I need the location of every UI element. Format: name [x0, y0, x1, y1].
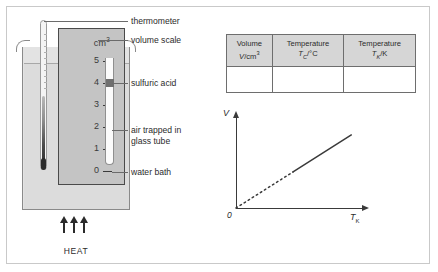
thermometer-graduation: [44, 70, 47, 71]
header-symbol-unit: TC/°C: [275, 49, 342, 62]
cell-temp-kelvin[interactable]: [344, 66, 416, 92]
cell-volume[interactable]: [227, 66, 273, 92]
cell-temp-celsius[interactable]: [272, 66, 344, 92]
thermometer-graduation: [44, 64, 47, 65]
scale-number: 1: [94, 143, 99, 153]
heat-arrow-head: [80, 216, 88, 223]
unit: K: [382, 49, 387, 58]
scale-tick-mark: [103, 171, 112, 172]
heat-arrow-stem: [83, 222, 85, 233]
apparatus-illustration: cm3 5 4 3 2 1 0: [0, 0, 215, 272]
heat-label: HEAT: [48, 246, 104, 256]
thermometer-graduation: [44, 58, 47, 59]
heat-arrow-stem: [63, 222, 65, 233]
glass-tube: [105, 58, 114, 165]
graph-plot-area: [222, 104, 402, 229]
volume-temperature-graph: V TK 0: [222, 104, 402, 229]
thermometer-graduation: [44, 34, 47, 35]
callout-volume-scale: volume scale: [131, 35, 181, 46]
thermometer-graduation: [44, 46, 47, 47]
callout-sulfuric-acid: sulfuric acid: [131, 78, 176, 89]
scale-number: 3: [94, 99, 99, 109]
header-title: Temperature: [346, 39, 413, 49]
callout-thermometer: thermometer: [131, 16, 180, 27]
results-table: Volume V/cm3 Temperature TC/°C Temperatu…: [226, 34, 416, 93]
callout-air-trapped: air trapped in glass tube: [131, 125, 181, 146]
table-header-row: Volume V/cm3 Temperature TC/°C Temperatu…: [227, 35, 416, 67]
heat-arrow-stem: [73, 222, 75, 233]
leader-sulfuric-acid: [112, 83, 128, 84]
heat-arrow-head: [70, 216, 78, 223]
callout-water-bath: water bath: [131, 167, 171, 178]
thermometer-graduation: [44, 52, 47, 53]
heat-arrow-head: [60, 216, 68, 223]
scale-number: 2: [94, 121, 99, 131]
leader-volume-scale: [98, 40, 128, 41]
table-row: [227, 66, 416, 92]
thermometer-graduation: [44, 76, 47, 77]
table-header-temperature-kelvin: Temperature TK/K: [344, 35, 416, 67]
header-symbol-unit: V/cm3: [229, 49, 270, 61]
thermometer-graduation: [44, 82, 47, 83]
thermometer-mercury-column: [42, 96, 45, 166]
series-extrapolated-line: [236, 172, 293, 208]
thermometer-graduation: [44, 40, 47, 41]
unit: °C: [309, 49, 318, 58]
scale-number: 4: [94, 77, 99, 87]
leader-air-trapped: [112, 130, 128, 131]
scale-number: 0: [94, 165, 99, 175]
table-header-temperature-celsius: Temperature TC/°C: [272, 35, 344, 67]
diagram-page: cm3 5 4 3 2 1 0: [0, 0, 438, 272]
table-header-volume: Volume V/cm3: [227, 35, 273, 67]
thermometer-bulb: [41, 158, 46, 170]
header-title: Temperature: [275, 39, 342, 49]
volume-scale-panel: [58, 28, 125, 185]
scale-number: 5: [94, 55, 99, 65]
thermometer-graduation: [44, 88, 47, 89]
series-measured-line: [293, 135, 351, 172]
leader-water-bath: [112, 172, 128, 173]
leader-thermometer: [44, 21, 128, 22]
header-symbol-unit: TK/K: [346, 49, 413, 62]
header-title: Volume: [229, 39, 270, 49]
volume-scale-unit-label: cm3: [58, 36, 110, 48]
